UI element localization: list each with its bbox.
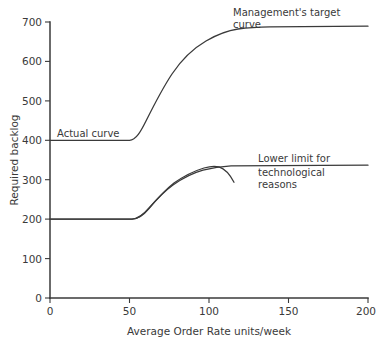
annotation-management-target-line1: Management's target bbox=[233, 7, 340, 18]
chart-canvas: 0 100 200 300 400 500 600 700 0 50 100 1… bbox=[0, 0, 389, 346]
x-tick-labels: 0 50 100 150 200 bbox=[47, 305, 376, 317]
y-axis-title: Required backlog bbox=[8, 114, 20, 205]
y-tick-label-300: 300 bbox=[22, 174, 42, 186]
y-tick-label-700: 700 bbox=[22, 16, 42, 28]
y-tick-labels: 0 100 200 300 400 500 600 700 bbox=[22, 16, 42, 304]
annotation-lower-limit-line2: technological bbox=[258, 167, 325, 178]
x-tick-label-150: 150 bbox=[278, 305, 298, 317]
y-tick-label-0: 0 bbox=[35, 292, 42, 304]
annotation-lower-limit-line3: reasons bbox=[258, 179, 297, 190]
annotation-actual-curve: Actual curve bbox=[57, 128, 120, 139]
y-tick-label-500: 500 bbox=[22, 95, 42, 107]
x-tick-label-50: 50 bbox=[123, 305, 136, 317]
x-tick-label-200: 200 bbox=[356, 305, 376, 317]
y-tick-label-100: 100 bbox=[22, 253, 42, 265]
y-tick-label-200: 200 bbox=[22, 213, 42, 225]
series-line-management-target bbox=[50, 26, 368, 140]
x-tick-label-0: 0 bbox=[47, 305, 54, 317]
y-tick-label-600: 600 bbox=[22, 55, 42, 67]
x-axis-title: Average Order Rate units/week bbox=[127, 325, 292, 337]
chart-figure: 0 100 200 300 400 500 600 700 0 50 100 1… bbox=[0, 0, 389, 346]
y-tick-label-400: 400 bbox=[22, 134, 42, 146]
annotation-lower-limit-line1: Lower limit for bbox=[258, 153, 331, 164]
x-tick-label-100: 100 bbox=[199, 305, 219, 317]
series-line-lower-limit bbox=[50, 166, 234, 219]
annotation-management-target-line2: curve bbox=[233, 19, 261, 30]
